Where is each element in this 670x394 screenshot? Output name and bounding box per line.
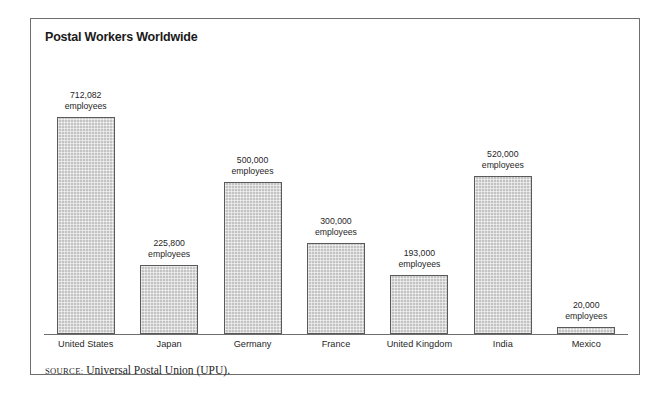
bar-rect-india[interactable]	[474, 176, 532, 334]
x-axis-tick-labels: United States Japan Germany France Unite…	[44, 339, 628, 355]
category-label-japan: Japan	[128, 339, 211, 355]
bar-group-germany[interactable]: 500,000 employees	[211, 59, 294, 334]
bar-group-mexico[interactable]: 20,000 employees	[545, 59, 628, 334]
bar-value-label: 193,000 employees	[398, 248, 440, 270]
x-axis-line	[44, 334, 628, 335]
bar-rect-mexico[interactable]	[557, 327, 615, 334]
bar-group-france[interactable]: 300,000 employees	[294, 59, 377, 334]
bar-group-united-states[interactable]: 712,082 employees	[44, 59, 127, 334]
bar-rect-japan[interactable]	[140, 265, 198, 334]
category-label-united-kingdom: United Kingdom	[378, 339, 461, 355]
bar-value-label: 20,000 employees	[565, 300, 607, 322]
bar-group-japan[interactable]: 225,800 employees	[128, 59, 211, 334]
plot-area: 712,082 employees 225,800 employees 500,…	[44, 59, 628, 335]
source-label: Source:	[45, 366, 83, 376]
bar-value-label: 520,000 employees	[482, 149, 524, 171]
bar-rect-united-states[interactable]	[57, 117, 115, 334]
category-label-india: India	[461, 339, 544, 355]
bar-group-india[interactable]: 520,000 employees	[461, 59, 544, 334]
bar-group-united-kingdom[interactable]: 193,000 employees	[378, 59, 461, 334]
source-note: Source: Universal Postal Union (UPU).	[45, 364, 230, 376]
page-title: Postal Workers Worldwide	[45, 30, 197, 44]
source-text: Universal Postal Union (UPU).	[86, 364, 230, 376]
bar-rect-united-kingdom[interactable]	[390, 275, 448, 334]
bar-value-label: 712,082 employees	[65, 90, 107, 112]
figure-frame: Postal Workers Worldwide 712,082 employe…	[30, 18, 640, 375]
category-label-mexico: Mexico	[545, 339, 628, 355]
bar-rect-germany[interactable]	[224, 182, 282, 334]
bar-value-label: 300,000 employees	[315, 216, 357, 238]
bars-row: 712,082 employees 225,800 employees 500,…	[44, 59, 628, 334]
category-label-france: France	[294, 339, 377, 355]
bar-rect-france[interactable]	[307, 243, 365, 334]
bar-value-label: 225,800 employees	[148, 238, 190, 260]
bar-value-label: 500,000 employees	[232, 155, 274, 177]
category-label-germany: Germany	[211, 339, 294, 355]
category-label-united-states: United States	[44, 339, 127, 355]
